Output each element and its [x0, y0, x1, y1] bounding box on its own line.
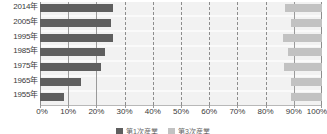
x-tick-label: 40%	[145, 107, 161, 117]
x-tick-label: 100%	[307, 107, 327, 117]
legend-swatch-icon	[116, 128, 123, 134]
x-tick-label: 30%	[117, 107, 133, 117]
y-axis-label: 1975年	[0, 61, 38, 70]
x-tick-label: 50%	[173, 107, 189, 117]
y-axis-label: 1985年	[0, 46, 38, 55]
bar-light-1975	[284, 63, 322, 71]
bar-light-2014	[285, 4, 322, 12]
legend-item: 第1次産業	[116, 126, 158, 134]
y-axis-label: 1965年	[0, 76, 38, 85]
bar-light-1995	[283, 34, 323, 42]
x-axis: 0% 10% 20% 30% 40% 50% 60% 70% 80% 90% 1…	[0, 107, 326, 119]
bar-light-1955	[291, 93, 322, 101]
y-axis-label: 2005年	[0, 17, 38, 26]
legend-label: 第1次産業	[126, 126, 158, 134]
x-tick-label: 60%	[201, 107, 217, 117]
y-axis-label: 2014年	[0, 2, 38, 11]
bar-dark-1965	[40, 78, 81, 86]
y-axis-label: 1955年	[0, 90, 38, 99]
bar-dark-1985	[40, 48, 105, 56]
bar-dark-2005	[40, 19, 111, 27]
legend-item: 第3次産業	[168, 126, 210, 134]
gridline-60	[209, 2, 211, 105]
bar-dark-1975	[40, 63, 101, 71]
x-tick-label: 20%	[88, 107, 104, 117]
x-tick-label: 90%	[286, 107, 302, 117]
bar-dark-1995	[40, 34, 113, 42]
x-tick-label: 80%	[258, 107, 274, 117]
gridline-50	[181, 2, 183, 105]
plot-area	[40, 2, 322, 105]
gridline-40	[153, 2, 155, 105]
legend-label: 第3次産業	[178, 126, 210, 134]
gridline-70	[237, 2, 239, 105]
y-axis: 2014年 2005年 1995年 1985年 1975年 1965年 1955…	[0, 2, 38, 105]
chart-legend: 第1次産業 第3次産業	[0, 126, 326, 134]
legend-swatch-icon	[168, 128, 175, 134]
x-tick-label: 10%	[60, 107, 76, 117]
gridline-80	[266, 2, 268, 105]
bar-light-1965	[291, 78, 322, 86]
x-tick-label: 70%	[229, 107, 245, 117]
bar-light-2005	[291, 19, 322, 27]
x-tick-label: 0%	[36, 107, 48, 117]
bar-dark-1955	[40, 93, 64, 101]
bar-dark-2014	[40, 4, 113, 12]
bar-light-1985	[288, 48, 322, 56]
y-axis-label: 1995年	[0, 32, 38, 41]
gridline-30	[125, 2, 127, 105]
